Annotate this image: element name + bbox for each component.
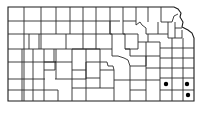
occurrence-dot [164, 82, 168, 86]
county-boundaries [8, 7, 194, 101]
occurrence-markers [164, 82, 190, 97]
occurrence-dot [186, 93, 190, 97]
occurrence-dot [185, 82, 189, 86]
kansas-county-map [0, 0, 201, 118]
